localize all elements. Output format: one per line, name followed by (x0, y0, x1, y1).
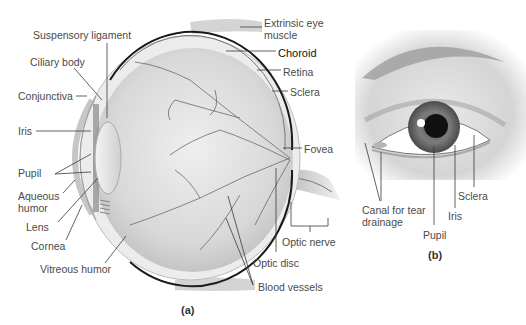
label-fovea: Fovea (304, 143, 333, 155)
label-vitreous-humor: Vitreous humor (40, 263, 111, 275)
label-pupil-external: Pupil (423, 229, 446, 241)
label-extrinsic-eye-muscle-line1: Extrinsic eye (264, 17, 324, 29)
label-choroid: Choroid (278, 47, 317, 59)
label-sclera-external: Sclera (458, 190, 488, 202)
label-extrinsic-eye-muscle-line2: muscle (264, 29, 297, 41)
label-retina: Retina (283, 66, 313, 78)
label-optic-disc: Optic disc (253, 257, 299, 269)
label-sclera: Sclera (290, 86, 320, 98)
label-aqueous-humor-line1: Aqueous (18, 190, 59, 202)
label-suspensory-ligament: Suspensory ligament (33, 29, 131, 41)
label-cornea: Cornea (31, 240, 65, 252)
panel-a-tag: (a) (181, 304, 194, 316)
label-ciliary-body: Ciliary body (30, 56, 85, 68)
label-iris: Iris (18, 125, 32, 137)
label-canal-tear-drainage-line1: Canal for tear (362, 204, 426, 216)
panel-b-tag: (b) (428, 249, 442, 261)
eye-diagram-artwork (0, 0, 526, 325)
label-optic-nerve: Optic nerve (282, 236, 336, 248)
label-pupil: Pupil (18, 167, 41, 179)
label-blood-vessels: Blood vessels (258, 281, 323, 293)
label-canal-tear-drainage-line2: drainage (362, 216, 403, 228)
label-lens: Lens (26, 221, 49, 233)
label-conjunctiva: Conjunctiva (18, 90, 73, 102)
label-iris-external: Iris (448, 210, 462, 222)
label-aqueous-humor-line2: humor (18, 202, 48, 214)
eye-anatomy-figure: Suspensory ligament Ciliary body Conjunc… (0, 0, 526, 325)
